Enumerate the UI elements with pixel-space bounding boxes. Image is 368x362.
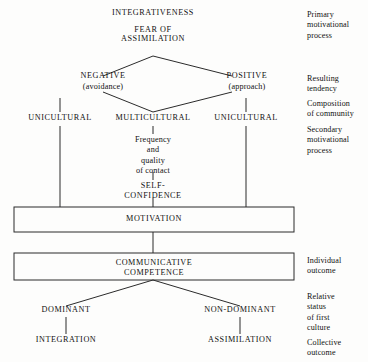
node-non-dominant: NON-DOMINANT	[194, 306, 286, 315]
node-fear-of-assimilation: FEAR OF ASSIMILATION	[98, 26, 208, 44]
label-communicative-competence: COMMUNICATIVE COMPETENCE	[14, 258, 294, 277]
annotation-resulting-tendency: Resulting tendency	[307, 74, 339, 95]
label-motivation: MOTIVATION	[14, 214, 294, 224]
edge-competence-to-dominant	[66, 280, 153, 306]
node-integrativeness: INTEGRATIVENESS	[88, 9, 218, 18]
node-dominant: DOMINANT	[26, 306, 106, 315]
node-unicultural-left: UNICULTURAL	[20, 114, 100, 123]
annotation-composition-of-community: Composition of community	[307, 99, 354, 120]
annotation-secondary-motivational-process: Secondary motivational process	[307, 125, 349, 156]
node-assimilation: ASSIMILATION	[196, 336, 284, 345]
node-negative-avoidance: (avoidance)	[68, 83, 138, 92]
node-negative: NEGATIVE	[68, 72, 138, 81]
annotation-relative-status-of-first-culture: Relative status of first culture	[307, 292, 335, 333]
node-frequency-and-quality-of-contact: Frequency and quality of contact	[113, 135, 193, 176]
diagram-canvas: INTEGRATIVENESS FEAR OF ASSIMILATION NEG…	[0, 0, 368, 362]
edge-competence-to-non-dominant	[153, 280, 240, 306]
edge-positive-to-multicultural	[153, 92, 232, 112]
node-unicultural-right: UNICULTURAL	[206, 114, 286, 123]
edge-negative-to-multicultural	[103, 92, 153, 112]
annotation-collective-outcome: Collective outcome	[307, 338, 341, 359]
node-multicultural: MULTICULTURAL	[109, 114, 197, 123]
annotation-individual-outcome: Individual outcome	[307, 256, 341, 277]
annotation-primary-motivational-process: Primary motivational process	[307, 10, 349, 41]
node-integration: INTEGRATION	[22, 336, 110, 345]
node-positive: POSITIVE	[212, 72, 282, 81]
node-positive-approach: (approach)	[212, 83, 282, 92]
node-self-confidence: SELF- CONFIDENCE	[108, 181, 198, 200]
